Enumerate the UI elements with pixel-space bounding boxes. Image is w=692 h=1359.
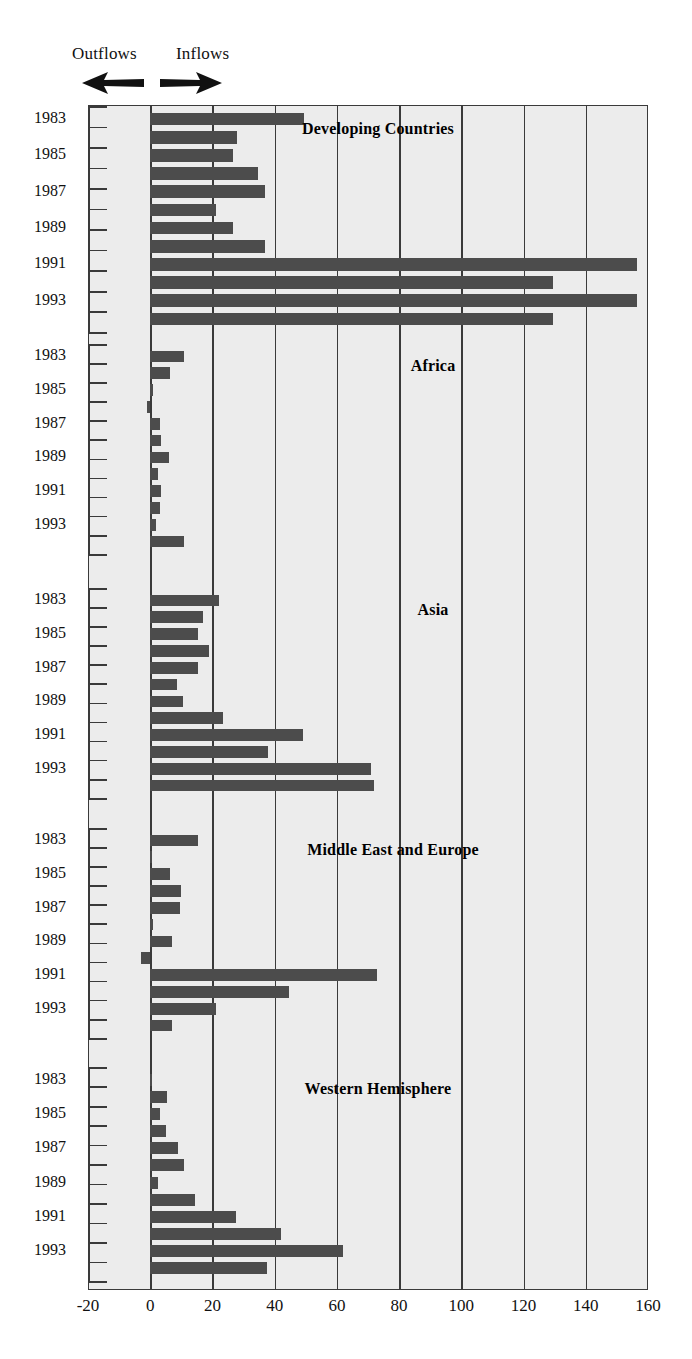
x-tick-label-80: 80: [391, 1296, 408, 1316]
year-tick: [88, 1223, 107, 1225]
x-tick-label--20: -20: [77, 1296, 100, 1316]
year-tick: [88, 962, 107, 964]
year-tick: [88, 1067, 107, 1069]
year-tick: [88, 626, 107, 628]
year-label: 1983: [34, 590, 66, 608]
year-label: 1989: [34, 691, 66, 709]
year-tick: [88, 497, 107, 499]
year-axis-labels: 1983198519871989199119931983198519871989…: [0, 105, 80, 1290]
bar: [150, 780, 374, 792]
panel-title: Middle East and Europe: [307, 841, 479, 859]
year-label: 1991: [34, 965, 66, 983]
x-tick-label-160: 160: [635, 1296, 661, 1316]
bar: [150, 1091, 167, 1103]
bar: [150, 1074, 152, 1086]
year-tick: [88, 866, 107, 868]
bar: [150, 502, 159, 514]
year-label: 1983: [34, 830, 66, 848]
bar: [150, 746, 268, 758]
panel-title: Africa: [411, 357, 456, 375]
year-label: 1985: [34, 624, 66, 642]
year-label: 1993: [34, 515, 66, 533]
bar: [150, 418, 159, 430]
bar: [150, 1159, 184, 1171]
year-label: 1989: [34, 218, 66, 236]
year-label: 1987: [34, 898, 66, 916]
bar: [150, 919, 153, 931]
bar: [150, 240, 265, 253]
year-label: 1983: [34, 1070, 66, 1088]
bar: [150, 519, 156, 531]
year-tick: [88, 981, 107, 983]
year-label: 1985: [34, 145, 66, 163]
year-tick: [88, 1145, 107, 1147]
year-tick: [88, 683, 107, 685]
year-label: 1993: [34, 291, 66, 309]
bar: [150, 986, 288, 998]
bar: [150, 969, 377, 981]
bar: [150, 468, 158, 480]
year-tick: [88, 607, 107, 609]
year-label: 1991: [34, 725, 66, 743]
year-tick: [88, 1184, 107, 1186]
bar: [150, 1194, 195, 1206]
bar: [150, 595, 218, 607]
bar: [150, 167, 257, 180]
bar: [150, 868, 170, 880]
year-tick: [88, 106, 107, 108]
panel-title: Developing Countries: [302, 120, 454, 138]
year-tick: [88, 1125, 107, 1127]
bar: [150, 313, 553, 326]
bar: [150, 1020, 172, 1032]
year-tick: [88, 439, 107, 441]
arrow-right-icon: [160, 72, 222, 94]
bar: [150, 729, 302, 741]
year-tick: [88, 209, 107, 211]
bar: [150, 185, 265, 198]
year-tick: [88, 401, 107, 403]
year-label: 1985: [34, 1104, 66, 1122]
bar: [150, 628, 198, 640]
year-label: 1985: [34, 864, 66, 882]
year-tick: [88, 798, 107, 800]
x-tick-label-60: 60: [328, 1296, 345, 1316]
year-label: 1985: [34, 380, 66, 398]
bar: [150, 851, 152, 863]
year-axis-spine: [88, 828, 90, 1038]
bar: [150, 1108, 159, 1120]
year-label: 1989: [34, 1173, 66, 1191]
bar: [150, 149, 232, 162]
year-axis-spine: [88, 1067, 90, 1281]
bar: [150, 885, 181, 897]
panel-title: Western Hemisphere: [305, 1080, 452, 1098]
bar: [150, 835, 198, 847]
x-tick-label-20: 20: [204, 1296, 221, 1316]
bar: [150, 712, 223, 724]
year-label: 1989: [34, 447, 66, 465]
bar: [150, 367, 170, 379]
year-tick: [88, 332, 107, 334]
year-tick: [88, 516, 107, 518]
bar: [150, 1262, 267, 1274]
panel-title: Asia: [417, 601, 448, 619]
bar: [150, 485, 161, 497]
year-tick: [88, 760, 107, 762]
year-tick: [88, 1019, 107, 1021]
year-tick: [88, 741, 107, 743]
bar: [150, 113, 304, 126]
year-tick: [88, 420, 107, 422]
year-label: 1983: [34, 346, 66, 364]
bar: [150, 1003, 215, 1015]
year-tick: [88, 847, 107, 849]
year-label: 1987: [34, 414, 66, 432]
year-tick: [88, 1203, 107, 1205]
year-tick: [88, 168, 107, 170]
year-axis-spine: [88, 106, 90, 332]
bar: [150, 536, 184, 548]
year-tick: [88, 703, 107, 705]
bar: [141, 952, 150, 964]
bar: [150, 384, 153, 396]
year-tick: [88, 664, 107, 666]
year-tick: [88, 1262, 107, 1264]
bar: [150, 1245, 343, 1257]
